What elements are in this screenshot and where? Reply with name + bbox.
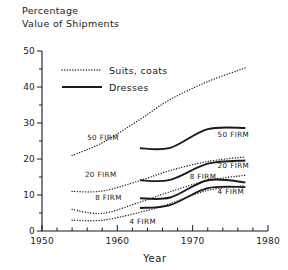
- series-annotation: 50 FIRM: [218, 130, 250, 139]
- axis-titles-layer: Year: [142, 253, 167, 264]
- chart-plot-area: 010203040501950196019701980 50 FIRM20 FI…: [0, 0, 288, 270]
- series-annotation: 8 FIRM: [95, 193, 122, 202]
- chart-figure: Percentage Value of Shipments 0102030405…: [0, 0, 288, 270]
- legend-label: Dresses: [109, 82, 149, 93]
- series-annotation: 8 FIRM: [190, 172, 217, 181]
- series-annotation: 4 FIRM: [129, 217, 156, 226]
- x-tick-label: 1950: [30, 236, 54, 246]
- legend-label: Suits, coats: [109, 65, 168, 76]
- y-tick-label: 0: [29, 226, 35, 236]
- y-tick-label: 30: [23, 118, 35, 128]
- y-tick-label: 50: [23, 46, 35, 56]
- x-tick-label: 1960: [105, 236, 129, 246]
- y-tick-label: 40: [23, 82, 35, 92]
- x-tick-label: 1980: [256, 236, 280, 246]
- axis-spines: [42, 51, 268, 231]
- series-curve-50-firm-suits-coats: [72, 68, 245, 155]
- series-annotation: 50 FIRM: [87, 133, 119, 142]
- x-tick-label: 1970: [181, 236, 205, 246]
- series-annotation: 20 FIRM: [218, 161, 250, 170]
- series-annotation: 20 FIRM: [85, 170, 117, 179]
- axes-layer: 010203040501950196019701980: [23, 46, 280, 246]
- chart-legend: Suits, coatsDresses: [62, 65, 168, 93]
- y-tick-label: 10: [23, 190, 35, 200]
- series-annotation: 4 FIRM: [218, 187, 245, 196]
- x-axis-title: Year: [142, 253, 167, 264]
- y-tick-label: 20: [23, 154, 35, 164]
